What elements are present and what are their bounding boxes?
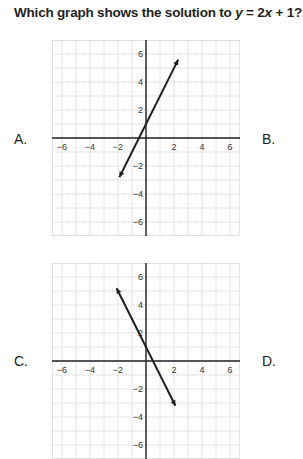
y-tick-label: 6 <box>138 49 143 59</box>
x-tick-label: 2 <box>171 142 176 152</box>
option-c-label[interactable]: C. <box>14 353 28 369</box>
y-tick-label: −6 <box>133 440 143 450</box>
question-suffix: + 1? <box>272 5 302 20</box>
y-tick-label: 4 <box>138 300 143 310</box>
variable-y: y <box>235 5 242 20</box>
x-tick-label: −6 <box>57 365 67 375</box>
question-text: Which graph shows the solution to y = 2x… <box>14 5 302 20</box>
option-b-label[interactable]: B. <box>262 131 275 147</box>
option-d-label[interactable]: D. <box>262 353 276 369</box>
y-tick-label: −4 <box>133 189 143 199</box>
x-tick-label: −2 <box>113 365 123 375</box>
x-tick-label: 4 <box>199 142 204 152</box>
y-tick-label: −6 <box>133 217 143 227</box>
y-tick-label: −2 <box>133 161 143 171</box>
y-tick-label: 4 <box>138 77 143 87</box>
graph-option-a[interactable]: −6−4−2246642−2−4−6 <box>52 40 240 236</box>
x-tick-label: −4 <box>85 142 95 152</box>
question-equals: = 2 <box>243 5 265 20</box>
y-tick-label: −4 <box>133 412 143 422</box>
x-tick-label: 6 <box>227 142 232 152</box>
x-tick-label: 2 <box>171 365 176 375</box>
coordinate-plane: −6−4−2246642−2−4−6 <box>52 40 240 236</box>
graphed-line <box>119 60 178 178</box>
x-tick-label: 4 <box>199 365 204 375</box>
question-prefix: Which graph shows the solution to <box>14 5 235 20</box>
graph-option-c[interactable]: −6−4−2246642−2−4−6 <box>52 263 240 459</box>
x-tick-label: −2 <box>113 142 123 152</box>
x-tick-label: −6 <box>57 142 67 152</box>
variable-x: x <box>265 5 272 20</box>
y-tick-label: 2 <box>138 105 143 115</box>
coordinate-plane: −6−4−2246642−2−4−6 <box>52 263 240 459</box>
option-a-label[interactable]: A. <box>14 131 27 147</box>
y-tick-label: −2 <box>133 384 143 394</box>
x-tick-label: 6 <box>227 365 232 375</box>
y-tick-label: 6 <box>138 272 143 282</box>
x-tick-label: −4 <box>85 365 95 375</box>
